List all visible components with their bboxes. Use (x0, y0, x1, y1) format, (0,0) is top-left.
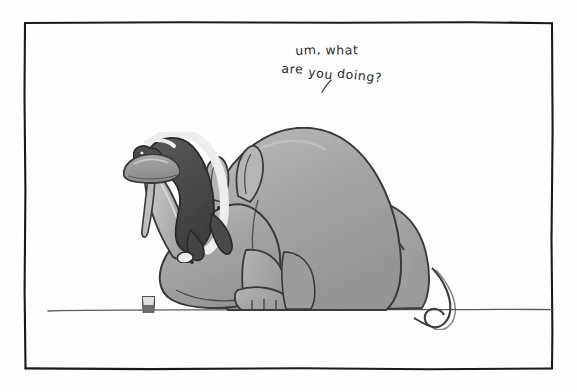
drinking-glass (142, 296, 155, 313)
glass-liquid (143, 305, 154, 313)
cartoon-panel: um, what are you doing? (0, 0, 577, 392)
badger-hind-paw (177, 252, 193, 263)
cartoon-illustration (0, 0, 577, 392)
